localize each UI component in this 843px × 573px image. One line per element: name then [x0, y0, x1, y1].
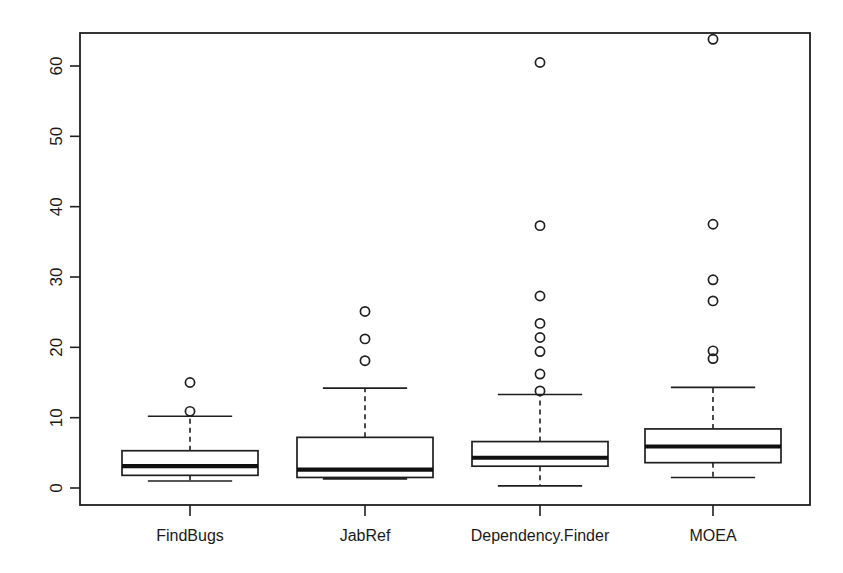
x-tick-label: MOEA: [689, 527, 736, 544]
y-tick-label: 40: [47, 197, 66, 216]
boxplot-canvas: 0102030405060 FindBugsJabRefDependency.F…: [0, 0, 843, 573]
y-tick-label: 10: [47, 408, 66, 427]
y-tick-label: 20: [47, 338, 66, 357]
x-tick-label: JabRef: [340, 527, 391, 544]
boxplot-figure: 0102030405060 FindBugsJabRefDependency.F…: [0, 0, 843, 573]
y-tick-label: 60: [47, 57, 66, 76]
x-tick-label: Dependency.Finder: [471, 527, 610, 544]
box-iqr: [122, 451, 258, 476]
box-iqr: [472, 442, 608, 467]
y-tick-label: 0: [47, 483, 66, 492]
y-tick-label: 30: [47, 268, 66, 287]
y-tick-label: 50: [47, 127, 66, 146]
x-tick-label: FindBugs: [156, 527, 224, 544]
figure-background: [0, 0, 843, 573]
